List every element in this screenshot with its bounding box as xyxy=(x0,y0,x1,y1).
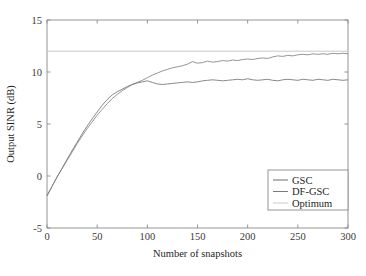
legend-label-gsc: GSC xyxy=(292,175,312,186)
x-tick-label: 200 xyxy=(240,231,256,242)
y-axis-title: Output SINR (dB) xyxy=(5,85,17,163)
x-tick-label: 50 xyxy=(92,231,103,242)
x-tick-label: 100 xyxy=(139,231,155,242)
y-tick-label: 15 xyxy=(32,15,43,26)
y-tick-label: -5 xyxy=(33,223,42,234)
x-axis-title: Number of snapshots xyxy=(153,248,242,259)
legend-label-optimum: Optimum xyxy=(292,198,332,209)
y-tick-label: 5 xyxy=(37,119,42,130)
y-tick-label: 10 xyxy=(32,67,43,78)
y-tick-label: 0 xyxy=(37,171,42,182)
x-tick-label: 300 xyxy=(340,231,356,242)
x-tick-label: 0 xyxy=(44,231,49,242)
legend-label-df-gsc: DF-GSC xyxy=(292,186,329,197)
chart-canvas: 050100150200250300 -5051015 Number of sn… xyxy=(0,0,366,276)
x-tick-label: 250 xyxy=(290,231,306,242)
chart-figure: 050100150200250300 -5051015 Number of sn… xyxy=(0,0,366,276)
x-tick-label: 150 xyxy=(190,231,206,242)
